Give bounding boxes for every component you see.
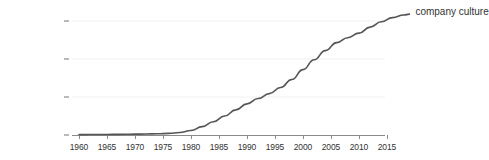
series-line-company-culture	[79, 14, 409, 134]
series-label-company-culture[interactable]: company culture	[415, 6, 488, 17]
